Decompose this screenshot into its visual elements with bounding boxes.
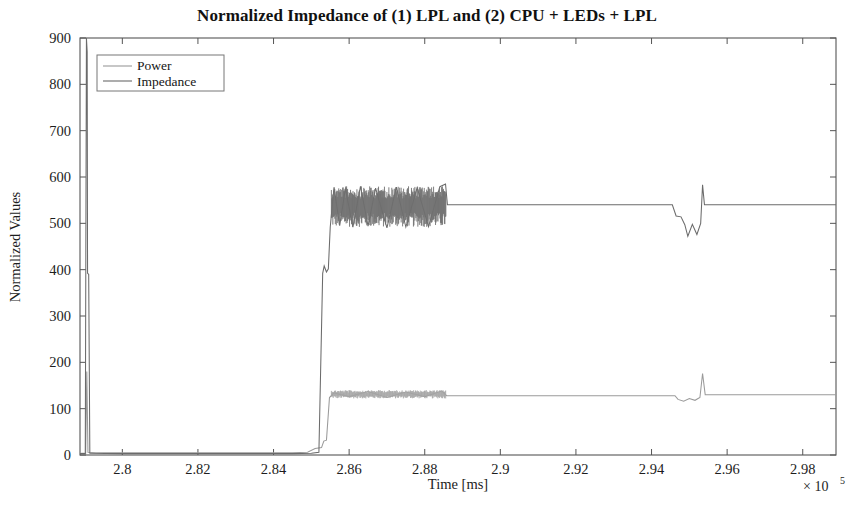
x-axis-exponent-power: 5 bbox=[840, 475, 845, 486]
x-tick-label: 2.94 bbox=[639, 461, 665, 477]
x-tick-label: 2.96 bbox=[714, 461, 739, 477]
y-tick-label: 900 bbox=[49, 30, 71, 46]
plot-background bbox=[80, 38, 836, 455]
y-tick-label: 100 bbox=[49, 401, 71, 417]
x-tick-label: 2.98 bbox=[790, 461, 815, 477]
y-tick-label: 300 bbox=[49, 308, 71, 324]
y-tick-label: 600 bbox=[49, 169, 71, 185]
x-tick-label: 2.92 bbox=[563, 461, 588, 477]
x-tick-label: 2.86 bbox=[336, 461, 361, 477]
chart-figure: Normalized Impedance of (1) LPL and (2) … bbox=[0, 0, 854, 509]
y-tick-label: 500 bbox=[49, 215, 71, 231]
x-tick-label: 2.84 bbox=[261, 461, 287, 477]
x-axis-label: Time [ms] bbox=[428, 476, 488, 492]
y-tick-label: 0 bbox=[64, 447, 71, 463]
x-tick-label: 2.88 bbox=[412, 461, 437, 477]
x-tick-label: 2.82 bbox=[185, 461, 210, 477]
x-axis-exponent: × 10 bbox=[803, 479, 828, 494]
legend-label-power: Power bbox=[137, 58, 172, 73]
y-tick-label: 800 bbox=[49, 76, 71, 92]
y-tick-label: 400 bbox=[49, 262, 71, 278]
legend-label-impedance: Impedance bbox=[137, 74, 196, 89]
y-tick-label: 200 bbox=[49, 354, 71, 370]
y-tick-label: 700 bbox=[49, 123, 71, 139]
x-tick-label: 2.9 bbox=[491, 461, 509, 477]
legend[interactable]: Power Impedance bbox=[97, 55, 224, 91]
y-axis-label: Normalized Values bbox=[7, 191, 23, 302]
plot-area: 2.82.822.842.862.882.92.922.942.962.98 0… bbox=[0, 0, 854, 509]
x-tick-label: 2.8 bbox=[113, 461, 131, 477]
